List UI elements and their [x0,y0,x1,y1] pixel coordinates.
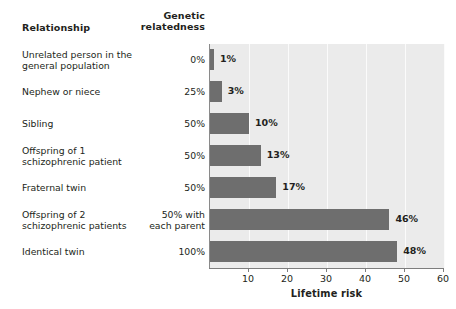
bar-row: 46% [210,204,444,236]
genetic-relatedness-value: 25% [140,86,205,97]
genetic-relatedness-value-line1: 50% with [140,209,205,220]
genetic-relatedness-value-line1: 0% [140,54,205,65]
bar-value-label: 13% [267,149,290,160]
relationship-label-line1: Nephew or niece [22,86,154,97]
x-axis-tick-mark-50 [404,268,405,272]
bar-row: 17% [210,172,444,204]
bar-value-label: 48% [403,245,426,256]
genetic-relatedness-value-line1: 100% [140,246,205,257]
relationship-label-line2: schizophrenic patient [22,156,154,167]
bar [210,177,276,198]
relationship-label-line1: Offspring of 2 [22,209,154,220]
bar [210,113,249,134]
relationship-label-line2: general population [22,60,154,71]
x-axis-tick-label-20: 20 [274,273,300,284]
x-axis-tick-label-60: 60 [430,273,456,284]
genetic-relatedness-value: 50% witheach parent [140,209,205,231]
x-axis-tick-mark-30 [326,268,327,272]
relationship-label-line1: Unrelated person in the [22,49,154,60]
bar [210,209,389,230]
relationship-label: Offspring of 2schizophrenic patients [22,209,154,231]
x-axis-tick-label-30: 30 [313,273,339,284]
x-axis-tick-label-40: 40 [352,273,378,284]
relationship-label: Unrelated person in thegeneral populatio… [22,49,154,71]
x-axis-tick-mark-60 [443,268,444,272]
bar-row: 13% [210,140,444,172]
bar-row: 3% [210,76,444,108]
bar-row: 48% [210,236,444,268]
x-axis-tick-mark-40 [365,268,366,272]
x-axis-tick-label-10: 10 [235,273,261,284]
bar-row: 10% [210,108,444,140]
bar-value-label: 1% [220,53,236,64]
genetic-relatedness-value: 50% [140,150,205,161]
genetic-relatedness-value: 50% [140,118,205,129]
relationship-label-table: Unrelated person in thegeneral populatio… [0,44,209,268]
genetic-relatedness-value: 100% [140,246,205,257]
genetic-relatedness-value: 50% [140,182,205,193]
relationship-label-line1: Sibling [22,118,154,129]
bar [210,49,214,70]
genetic-relatedness-value: 0% [140,54,205,65]
genetic-relatedness-value-line1: 50% [140,118,205,129]
genetic-relatedness-value-line1: 50% [140,150,205,161]
relationship-label: Fraternal twin [22,182,154,193]
column-header-genetic-relatedness-line2: relatedness [120,21,205,32]
bar [210,81,222,102]
x-axis-title: Lifetime risk [209,288,444,299]
bar-value-label: 10% [255,117,278,128]
genetic-relatedness-value-line1: 50% [140,182,205,193]
bar [210,241,397,262]
genetic-relatedness-value-line2: each parent [140,220,205,231]
genetic-relatedness-value-line1: 25% [140,86,205,97]
relationship-label: Identical twin [22,246,154,257]
relationship-label-line1: Fraternal twin [22,182,154,193]
relationship-label: Offspring of 1schizophrenic patient [22,145,154,167]
bar-value-label: 17% [282,181,305,192]
gridline-60 [444,44,445,268]
plot-area: 1%3%10%13%17%46%48% [209,44,444,268]
bar-row: 1% [210,44,444,76]
relationship-label-line1: Identical twin [22,246,154,257]
bar-value-label: 46% [395,213,418,224]
column-header-relationship: Relationship [22,22,90,33]
schizophrenia-risk-chart-figure: Relationship Genetic relatedness Unrelat… [0,0,456,309]
bar [210,145,261,166]
x-axis-tick-mark-10 [248,268,249,272]
relationship-label: Sibling [22,118,154,129]
relationship-label-line2: schizophrenic patients [22,220,154,231]
column-header-genetic-relatedness-line1: Genetic [120,10,205,21]
column-header-genetic-relatedness: Genetic relatedness [120,10,205,32]
relationship-label-line1: Offspring of 1 [22,145,154,156]
relationship-label: Nephew or niece [22,86,154,97]
x-axis-tick-mark-20 [287,268,288,272]
bar-value-label: 3% [228,85,244,96]
x-axis-tick-label-50: 50 [391,273,417,284]
